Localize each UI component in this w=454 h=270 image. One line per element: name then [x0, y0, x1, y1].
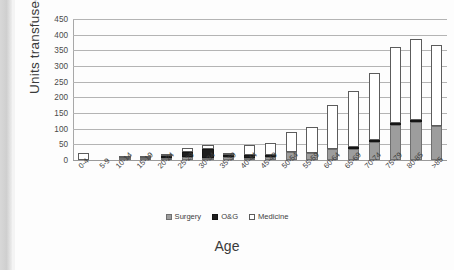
bar-segment-medicine[interactable] — [390, 47, 401, 123]
bar-slot-10-14[interactable] — [115, 19, 136, 160]
x-tick-slot: 30-34 — [198, 162, 219, 202]
y-tick-label-250: 250 — [54, 77, 68, 86]
x-tick-slot: 35-39 — [218, 162, 239, 202]
x-tick-slot: 55-59 — [302, 162, 323, 202]
bar-slot-35-39[interactable] — [218, 19, 239, 160]
legend-item-medicine[interactable]: Medicine — [249, 212, 288, 221]
bar-segment-medicine[interactable] — [348, 91, 359, 147]
bar-slot-55-59[interactable] — [302, 19, 323, 160]
bar-segment-medicine[interactable] — [410, 39, 421, 120]
x-axis-tick-labels: 0-45-910-1415-1920-2425-2930-3435-3940-4… — [73, 162, 447, 202]
x-tick-slot: 0-4 — [73, 162, 94, 202]
bar-slot-60-64[interactable] — [322, 19, 343, 160]
y-tick-label-50: 50 — [59, 140, 68, 149]
x-tick-slot: 25-29 — [177, 162, 198, 202]
bar-segment-medicine[interactable] — [327, 105, 338, 149]
bar-slot-30-34[interactable] — [198, 19, 219, 160]
bar-stack[interactable] — [369, 73, 380, 160]
bar-stack[interactable] — [348, 91, 359, 160]
legend-label: O&G — [221, 212, 238, 221]
bar-stack[interactable] — [410, 39, 421, 160]
x-tick-slot: 50-54 — [281, 162, 302, 202]
bar-segment-medicine[interactable] — [306, 127, 317, 153]
x-tick-slot: 80-85 — [406, 162, 427, 202]
x-tick-slot: 45-49 — [260, 162, 281, 202]
x-tick-slot: 15-19 — [135, 162, 156, 202]
slide-left-gutter-edge — [12, 0, 15, 270]
y-tick-label-200: 200 — [54, 93, 68, 102]
bar-slot-40-44[interactable] — [239, 19, 260, 160]
bar-slot-45-49[interactable] — [260, 19, 281, 160]
x-tick-slot: 60-64 — [322, 162, 343, 202]
bar-slot-75-79[interactable] — [385, 19, 406, 160]
x-tick-slot: 75-79 — [385, 162, 406, 202]
x-tick-slot: >85 — [426, 162, 447, 202]
legend-swatch-surgery — [166, 214, 172, 220]
bar-segment-medicine[interactable] — [286, 132, 297, 152]
bar-slot-15-19[interactable] — [135, 19, 156, 160]
legend-swatch-og — [212, 214, 218, 220]
x-axis-title: Age — [0, 238, 454, 254]
legend-item-surgery[interactable]: Surgery — [166, 212, 202, 221]
plot-area: 450400350300250200150100500 — [73, 19, 447, 160]
bar-slot-50-54[interactable] — [281, 19, 302, 160]
legend-item-og[interactable]: O&G — [212, 212, 238, 221]
legend-swatch-medicine — [249, 214, 255, 220]
slide-left-gutter-band — [0, 0, 12, 270]
y-tick-label-150: 150 — [54, 109, 68, 118]
bar-slot-0-4[interactable] — [73, 19, 94, 160]
x-tick-slot: 40-44 — [239, 162, 260, 202]
y-tick-label-0: 0 — [63, 156, 68, 165]
y-tick-label-300: 300 — [54, 62, 68, 71]
bar-slot->85[interactable] — [426, 19, 447, 160]
bar-segment-medicine[interactable] — [431, 45, 442, 126]
legend-label: Surgery — [175, 212, 202, 221]
x-tick-slot: 70-74 — [364, 162, 385, 202]
y-tick-label-350: 350 — [54, 46, 68, 55]
bar-segment-medicine[interactable] — [369, 73, 380, 140]
bar-slot-5-9[interactable] — [94, 19, 115, 160]
x-tick-slot: 5-9 — [94, 162, 115, 202]
x-tick-slot: 65-69 — [343, 162, 364, 202]
bar-stack[interactable] — [431, 45, 442, 160]
y-tick-label-450: 450 — [54, 15, 68, 24]
bar-slot-65-69[interactable] — [343, 19, 364, 160]
legend-label: Medicine — [258, 212, 288, 221]
y-tick-label-400: 400 — [54, 30, 68, 39]
y-axis-title: Units transfused — [27, 0, 42, 124]
bar-stack[interactable] — [390, 47, 401, 160]
bar-slot-80-85[interactable] — [406, 19, 427, 160]
x-tick-slot: 20-24 — [156, 162, 177, 202]
slide-canvas: Units transfused 45040035030025020015010… — [0, 0, 454, 270]
y-tick-label-100: 100 — [54, 124, 68, 133]
chart-legend: SurgeryO&GMedicine — [0, 212, 454, 221]
bar-slot-20-24[interactable] — [156, 19, 177, 160]
bar-slot-70-74[interactable] — [364, 19, 385, 160]
x-tick-slot: 10-14 — [115, 162, 136, 202]
bar-slot-25-29[interactable] — [177, 19, 198, 160]
bar-series-group — [73, 19, 447, 160]
